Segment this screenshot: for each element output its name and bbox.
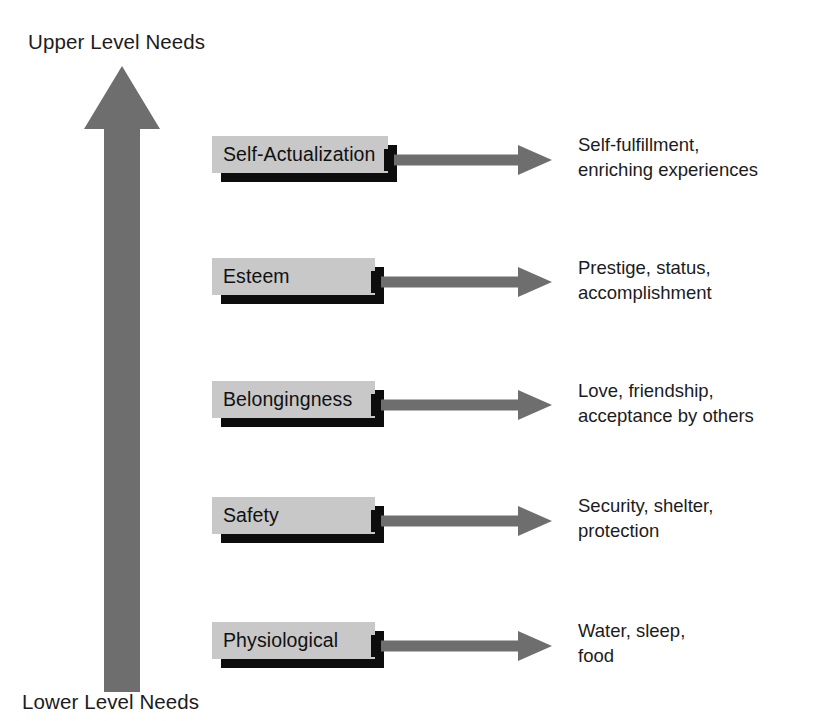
- tier-box-physiological[interactable]: Physiological: [212, 622, 384, 668]
- tier-arrow-connector: [384, 149, 394, 171]
- maslow-hierarchy-diagram: Upper Level Needs Lower Level Needs Self…: [0, 0, 816, 721]
- tier-arrow-safety-icon: [375, 504, 552, 538]
- tier-description-line-2: food: [578, 643, 685, 668]
- tier-arrow-connector: [371, 271, 381, 293]
- tier-description-line-2: protection: [578, 518, 713, 543]
- upper-level-needs-label: Upper Level Needs: [28, 30, 205, 54]
- upward-needs-arrow-icon: [80, 66, 164, 692]
- tier-box-safety[interactable]: Safety: [212, 497, 384, 543]
- tier-description-line-2: accomplishment: [578, 280, 712, 305]
- tier-arrow-esteem-icon: [375, 265, 552, 299]
- tier-description-line-1: Security, shelter,: [578, 493, 713, 518]
- tier-label: Physiological: [212, 629, 338, 652]
- tier-label: Belongingness: [212, 388, 352, 411]
- tier-description-self-actualization: Self-fulfillment,enriching experiences: [578, 132, 758, 182]
- tier-box-face: Physiological: [212, 622, 375, 659]
- lower-level-needs-label: Lower Level Needs: [22, 690, 199, 714]
- tier-description-esteem: Prestige, status,accomplishment: [578, 255, 712, 305]
- tier-box-self-actualization[interactable]: Self-Actualization: [212, 136, 397, 182]
- tier-arrow-physiological-icon: [375, 629, 552, 663]
- tier-arrow-belongingness-icon: [375, 388, 552, 422]
- tier-description-line-2: enriching experiences: [578, 157, 758, 182]
- tier-description-belongingness: Love, friendship,acceptance by others: [578, 378, 754, 428]
- tier-label: Self-Actualization: [212, 143, 375, 166]
- tier-box-belongingness[interactable]: Belongingness: [212, 381, 384, 427]
- tier-description-safety: Security, shelter,protection: [578, 493, 713, 543]
- tier-description-line-1: Love, friendship,: [578, 378, 754, 403]
- tier-box-esteem[interactable]: Esteem: [212, 258, 384, 304]
- tier-box-face: Esteem: [212, 258, 375, 295]
- tier-box-face: Safety: [212, 497, 375, 534]
- tier-description-line-1: Prestige, status,: [578, 255, 712, 280]
- tier-arrow-connector: [371, 635, 381, 657]
- tier-description-line-1: Water, sleep,: [578, 618, 685, 643]
- tier-label: Esteem: [212, 265, 290, 288]
- tier-description-line-1: Self-fulfillment,: [578, 132, 758, 157]
- tier-box-face: Self-Actualization: [212, 136, 388, 173]
- tier-description-physiological: Water, sleep,food: [578, 618, 685, 668]
- tier-description-line-2: acceptance by others: [578, 403, 754, 428]
- tier-arrow-connector: [371, 394, 381, 416]
- tier-arrow-self-actualization-icon: [388, 143, 552, 177]
- tier-box-face: Belongingness: [212, 381, 375, 418]
- tier-arrow-connector: [371, 510, 381, 532]
- tier-label: Safety: [212, 504, 279, 527]
